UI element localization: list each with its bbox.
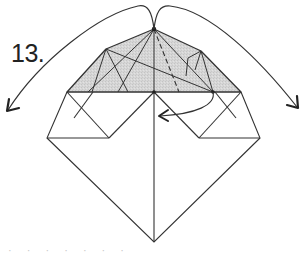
tuck-arrow [159, 92, 213, 121]
step-number-label: 13. [11, 41, 44, 66]
lower-body [47, 92, 260, 242]
cropped-caption-text: · · · · · · · [8, 244, 130, 256]
